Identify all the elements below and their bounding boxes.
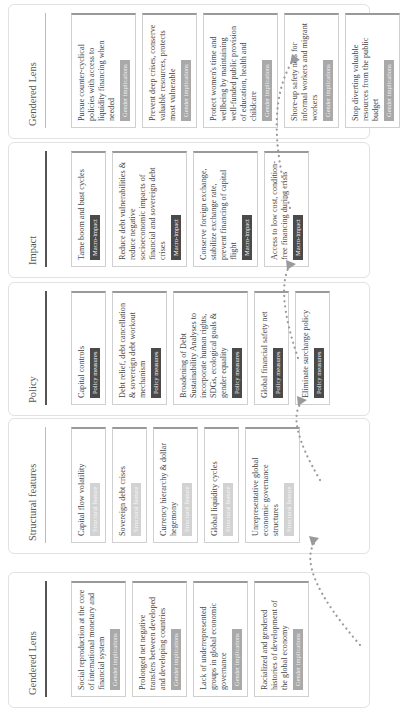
panel-title: Gendered Lens (27, 62, 38, 126)
tag-gender-implications: Gender implications (181, 60, 191, 121)
card: Lack of underrepresented groups in globa… (193, 581, 248, 697)
card: Protect women's time and wellbeing by ma… (203, 13, 278, 128)
tag-gender-implications: Gender implications (171, 629, 181, 690)
card-text: Capital flow volatility (77, 435, 87, 536)
card: Sovereign debt crises Structural feature (112, 427, 147, 543)
panel-title: Gendered Lens (27, 631, 38, 695)
card: Tame boom and bust cycles Macro-impact (71, 151, 106, 267)
panel-divider (45, 13, 46, 128)
panel-gendered-lens-output: Gendered Lens Pursue counter-cyclical po… (8, 4, 370, 139)
panel-divider (45, 151, 47, 267)
panel-policy: Policy Capital controls Policy measures … (8, 282, 370, 416)
tag-gender-implications: Gender implications (384, 60, 394, 121)
card-text: Reduce debt vulnerabilities & reduce neg… (118, 159, 168, 260)
card-text: Tame boom and bust cycles (77, 159, 87, 260)
card-text: Prevent deep crises, conserve valuable r… (148, 21, 178, 121)
card-text: Shore-up safety nets for informal worker… (290, 21, 320, 121)
tag-macro-impact: Macro-impact (293, 215, 303, 260)
card: Prolonged net negative transfers between… (132, 581, 187, 697)
card: Reduce debt vulnerabilities & reduce neg… (112, 151, 187, 267)
card: Debt relief, debt cancellation & soverei… (112, 291, 167, 405)
tag-gender-implications: Gender implications (110, 629, 120, 690)
tag-policy-measures: Policy measures (314, 348, 324, 398)
panel-impact: Impact Tame boom and bust cycles Macro-i… (8, 142, 370, 278)
panel-divider (45, 581, 47, 697)
tag-structural-feature: Structural feature (131, 483, 141, 536)
card-text: Pursue counter-cyclical policies with ac… (77, 21, 117, 121)
card: Capital controls Policy measures (71, 291, 106, 405)
card-text: Unrepresentative global economic governa… (251, 435, 281, 536)
card-text: Protect women's time and wellbeing by ma… (209, 21, 259, 121)
card: Pursue counter-cyclical policies with ac… (71, 13, 136, 128)
tag-structural-feature: Structural feature (284, 483, 294, 536)
tag-gender-implications: Gender implications (262, 60, 272, 121)
tag-structural-feature: Structural feature (182, 483, 192, 536)
card-text: Access to low cost, condition-free finan… (270, 159, 290, 260)
card: Racialized and gendered histories of dev… (254, 581, 309, 697)
card-text: Capital controls (77, 299, 87, 398)
tag-policy-measures: Policy measures (273, 348, 283, 398)
tag-policy-measures: Policy measures (232, 348, 242, 398)
tag-gender-implications: Gender implications (120, 60, 130, 121)
panel-structural-features: Structural features Capital flow volatil… (8, 418, 370, 554)
card: Shore-up safety nets for informal worker… (284, 13, 339, 128)
card: Access to low cost, condition-free finan… (264, 151, 309, 267)
panel-title: Impact (27, 236, 38, 265)
card: Conserve foreign exchange, stabilize exc… (193, 151, 258, 267)
card: Global financial safety net Policy measu… (254, 291, 289, 405)
panel-title: Structural features (27, 464, 38, 541)
card-text: Global liquidity cycles (210, 435, 220, 536)
card-text: Broadening of Debt Sustainability Analys… (179, 299, 229, 398)
card-text: Global financial safety net (260, 299, 270, 398)
panel-gendered-lens-input: Gendered Lens Social reproduction at the… (8, 572, 370, 708)
panel-divider (45, 427, 46, 543)
card-text: Social reproduction at the core of inter… (77, 589, 107, 690)
card: Eliminate surcharge policy Policy measur… (295, 291, 330, 405)
tag-gender-implications: Gender implications (293, 629, 303, 690)
card-text: Currency hierarchy & dollar hegemony (159, 435, 179, 536)
card-text: Debt relief, debt cancellation & soverei… (118, 299, 148, 398)
tag-structural-feature: Structural feature (223, 483, 233, 536)
card-text: Eliminate surcharge policy (301, 299, 311, 398)
panel-divider (45, 291, 47, 405)
card: Capital flow volatility Structural featu… (71, 427, 106, 543)
card-text: Conserve foreign exchange, stabilize exc… (199, 159, 239, 260)
card: Social reproduction at the core of inter… (71, 581, 126, 697)
card: Prevent deep crises, conserve valuable r… (142, 13, 197, 128)
card-text: Stop diverting valuable resources from t… (351, 21, 381, 121)
tag-policy-measures: Policy measures (151, 348, 161, 398)
tag-policy-measures: Policy measures (90, 348, 100, 398)
card: Currency hierarchy & dollar hegemony Str… (153, 427, 198, 543)
card: Stop diverting valuable resources from t… (345, 13, 400, 128)
tag-gender-implications: Gender implications (232, 629, 242, 690)
tag-macro-impact: Macro-impact (171, 215, 181, 260)
tag-structural-feature: Structural feature (90, 483, 100, 536)
card-text: Sovereign debt crises (118, 435, 128, 536)
card: Broadening of Debt Sustainability Analys… (173, 291, 248, 405)
tag-gender-implications: Gender implications (323, 60, 333, 121)
card: Global liquidity cycles Structural featu… (204, 427, 239, 543)
card-text: Lack of underrepresented groups in globa… (199, 589, 229, 690)
card-text: Prolonged net negative transfers between… (138, 589, 168, 690)
tag-macro-impact: Macro-impact (90, 215, 100, 260)
panel-title: Policy (27, 376, 38, 403)
tag-macro-impact: Macro-impact (242, 215, 252, 260)
card-text: Racialized and gendered histories of dev… (260, 589, 290, 690)
card: Unrepresentative global economic governa… (245, 427, 300, 543)
